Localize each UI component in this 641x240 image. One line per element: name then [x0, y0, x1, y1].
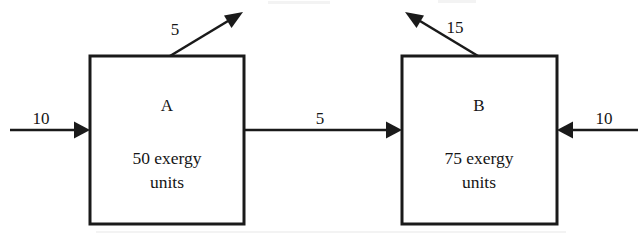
block-a-units: units: [150, 172, 184, 192]
input-a-label: 10: [33, 109, 50, 128]
input-a-arrow-head: [74, 122, 90, 139]
block-b-title: B: [473, 96, 484, 115]
block-a-value: 50 exergy: [132, 148, 201, 168]
loss-b-arrow-head: [405, 12, 424, 28]
loss-a-label: 5: [171, 20, 180, 39]
block-b-value: 75 exergy: [444, 148, 513, 168]
loss-a-arrow-head: [224, 12, 243, 28]
diagram-canvas: A 50 exergy units B 75 exergy units 10 5…: [0, 0, 641, 240]
block-b: [402, 56, 557, 224]
block-b-units: units: [462, 172, 496, 192]
input-b-label: 10: [596, 109, 613, 128]
exergy-flow-diagram: A 50 exergy units B 75 exergy units 10 5…: [0, 0, 641, 240]
loss-b-label: 15: [447, 18, 464, 37]
block-a: [90, 56, 244, 224]
transfer-arrow-head: [386, 122, 402, 139]
input-b-arrow-head: [557, 122, 573, 139]
transfer-label: 5: [316, 109, 325, 128]
block-a-title: A: [161, 96, 174, 115]
